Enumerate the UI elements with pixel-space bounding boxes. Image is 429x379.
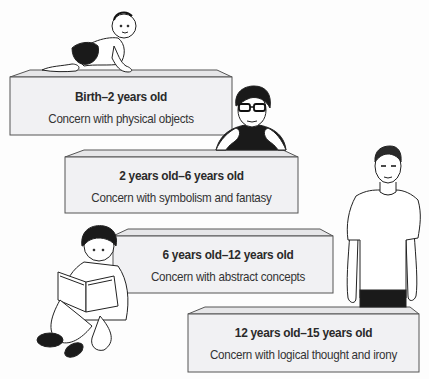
developmental-stages-diagram: Birth–2 years old Concern with physical … bbox=[0, 0, 429, 379]
stage-description: Concern with abstract concepts bbox=[133, 270, 322, 284]
stage-label-2: 2 years old–6 years old Concern with sym… bbox=[65, 169, 298, 204]
standing-teenager-figure bbox=[347, 146, 420, 307]
stage-description: Concern with logical thought and irony bbox=[204, 348, 403, 362]
stage-label-4: 12 years old–15 years old Concern with l… bbox=[188, 326, 419, 361]
stage-title: 2 years old–6 years old bbox=[79, 169, 284, 183]
boy-reading-figure bbox=[37, 226, 128, 361]
stage-title: Birth–2 years old bbox=[23, 90, 218, 104]
stage-description: Concern with symbolism and fantasy bbox=[81, 191, 281, 205]
stage-description: Concern with physical objects bbox=[26, 112, 217, 126]
stage-label-1: Birth–2 years old Concern with physical … bbox=[10, 90, 232, 125]
stage-title: 6 years old–12 years old bbox=[131, 248, 325, 262]
crawling-baby-figure bbox=[42, 13, 136, 72]
stage-label-3: 6 years old–12 years old Concern with ab… bbox=[118, 248, 338, 283]
stage-title: 12 years old–15 years old bbox=[202, 326, 405, 340]
